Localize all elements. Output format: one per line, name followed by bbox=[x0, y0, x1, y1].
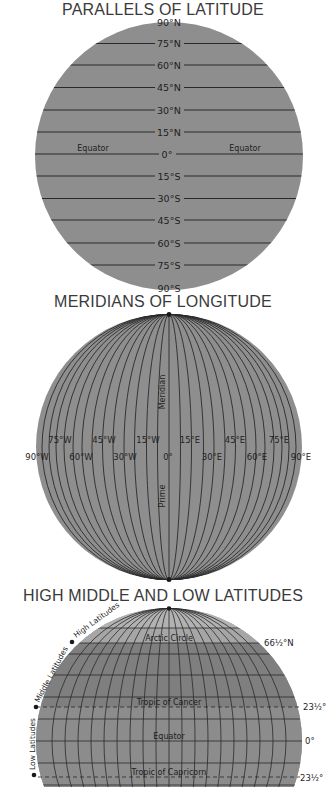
lat-label-30n: 30°N bbox=[157, 105, 181, 116]
lat-label-90s: 90°S bbox=[158, 283, 181, 294]
meridians-globe: 75°W 45°W 15°W 15°E 45°E 75°E 90°W 60°W … bbox=[25, 312, 311, 582]
degree-label-66n: 66½°N bbox=[264, 638, 294, 648]
globe-diagrams: 90°N 75°N 60°N 45°N 30°N 15°N 0° 15°S 30… bbox=[0, 0, 326, 787]
lon-label-45w: 45°W bbox=[92, 435, 116, 445]
arctic-circle-label: Arctic Circle bbox=[145, 634, 193, 643]
lat-label-60n: 60°N bbox=[157, 60, 181, 71]
degree-label-cancer: 23½° bbox=[303, 702, 326, 712]
equator-label-left: Equator bbox=[77, 144, 109, 153]
lat-label-45s: 45°S bbox=[158, 215, 181, 226]
prime-meridian-label-lower: Prime bbox=[158, 484, 167, 507]
lat-label-0: 0° bbox=[162, 149, 173, 160]
zone-divider-dot-low bbox=[32, 773, 37, 778]
degree-label-equator: 0° bbox=[305, 736, 315, 746]
lon-label-0: 0° bbox=[163, 452, 173, 462]
zone-divider-dot-high bbox=[70, 640, 75, 645]
lon-label-30w: 30°W bbox=[113, 452, 137, 462]
lon-label-30e: 30°E bbox=[202, 452, 222, 462]
lat-label-15n: 15°N bbox=[157, 127, 181, 138]
prime-meridian-label-upper: Meridian bbox=[158, 375, 167, 410]
degree-label-capricorn: 23½° bbox=[300, 773, 323, 783]
lat-label-45n: 45°N bbox=[157, 82, 181, 93]
tropic-of-cancer-label: Tropic of Cancer bbox=[136, 698, 202, 707]
lat-label-30s: 30°S bbox=[158, 193, 181, 204]
pole-dot bbox=[167, 606, 172, 611]
equator-label: Equator bbox=[153, 732, 185, 741]
south-pole-dot bbox=[167, 577, 172, 582]
parallels-globe: 90°N 75°N 60°N 45°N 30°N 15°N 0° 15°S 30… bbox=[30, 17, 310, 294]
lon-label-90w: 90°W bbox=[25, 452, 49, 462]
lat-label-60s: 60°S bbox=[158, 238, 181, 249]
equator-label-right: Equator bbox=[229, 144, 261, 153]
lon-label-60e: 60°E bbox=[247, 452, 267, 462]
lon-label-75e: 75°E bbox=[269, 435, 289, 445]
lon-label-45e: 45°E bbox=[225, 435, 245, 445]
lon-label-75w: 75°W bbox=[48, 435, 72, 445]
lon-label-15e: 15°E bbox=[180, 435, 200, 445]
lon-label-60w: 60°W bbox=[69, 452, 93, 462]
lat-label-75s: 75°S bbox=[158, 260, 181, 271]
zone-divider-dot-middle bbox=[34, 705, 39, 710]
low-latitudes-label: Low Latitudes bbox=[28, 718, 37, 770]
lon-label-90e: 90°E bbox=[291, 452, 311, 462]
lon-label-15w: 15°W bbox=[136, 435, 160, 445]
latitude-zones-globe: Arctic Circle Tropic of Cancer Equator T… bbox=[28, 600, 326, 787]
tropic-of-capricorn-label: Tropic of Capricorn bbox=[131, 768, 207, 777]
north-pole-dot bbox=[167, 312, 172, 317]
lat-label-75n: 75°N bbox=[157, 38, 181, 49]
lat-label-90n: 90°N bbox=[157, 17, 181, 28]
lat-label-15s: 15°S bbox=[158, 171, 181, 182]
